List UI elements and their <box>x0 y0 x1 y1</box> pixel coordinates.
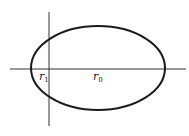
ellipse-orbit <box>31 26 165 110</box>
label-r1: r1 <box>39 70 49 84</box>
label-r0: r0 <box>93 70 103 84</box>
ellipse-diagram: r1 r0 <box>0 0 189 136</box>
